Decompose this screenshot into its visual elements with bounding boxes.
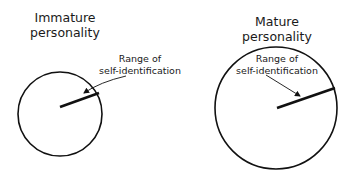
mature-range-line: [277, 88, 335, 108]
immature-title-line2: personality: [20, 25, 110, 40]
mature-title-line2: personality: [232, 29, 322, 44]
mature-title: Mature personality: [232, 14, 322, 44]
mature-title-line1: Mature: [232, 14, 322, 29]
immature-title: Immature personality: [20, 10, 110, 40]
mature-label-line1: Range of: [232, 53, 322, 65]
mature-arrow: [266, 75, 300, 96]
immature-range-line: [60, 93, 99, 107]
mature-label-line2: self-identification: [232, 65, 322, 77]
mature-label: Range of self-identification: [232, 53, 322, 76]
immature-personality-circle: [18, 72, 102, 156]
diagram-canvas: Immature personality Range of self-ident…: [0, 0, 355, 176]
immature-title-line1: Immature: [20, 10, 110, 25]
immature-label-line2: self-identification: [95, 65, 185, 77]
immature-label-line1: Range of: [95, 53, 185, 65]
immature-label: Range of self-identification: [95, 53, 185, 76]
